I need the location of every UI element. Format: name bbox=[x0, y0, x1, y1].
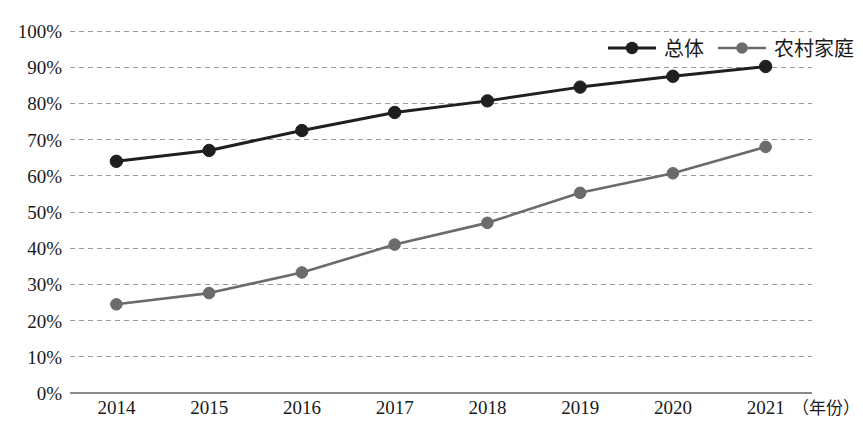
line-chart: 0%10%20%30%40%50%60%70%80%90%100% 201420… bbox=[0, 0, 863, 445]
legend-item-2[interactable]: 农村家庭 bbox=[718, 38, 854, 60]
gridlines-group bbox=[70, 31, 812, 357]
data-point bbox=[111, 299, 123, 311]
data-point bbox=[296, 267, 308, 279]
data-series-group bbox=[110, 60, 772, 310]
x-axis-unit-label: （年份） bbox=[792, 399, 860, 418]
data-point bbox=[574, 81, 586, 93]
data-point bbox=[574, 187, 586, 199]
y-axis-tick-label: 40% bbox=[27, 238, 62, 259]
y-axis-tick-labels: 0%10%20%30%40%50%60%70%80%90%100% bbox=[18, 21, 63, 404]
legend-label: 农村家庭 bbox=[774, 38, 854, 60]
data-point bbox=[296, 124, 308, 136]
data-point bbox=[482, 217, 494, 229]
legend-marker-icon bbox=[626, 42, 638, 54]
data-point bbox=[759, 60, 771, 72]
x-axis-tick-label: 2020 bbox=[654, 397, 692, 418]
x-axis-tick-label: 2017 bbox=[376, 397, 414, 418]
y-axis-tick-label: 20% bbox=[27, 311, 62, 332]
y-axis-tick-label: 50% bbox=[27, 202, 62, 223]
data-point bbox=[760, 141, 772, 153]
y-axis-tick-label: 60% bbox=[27, 166, 62, 187]
x-axis-tick-label: 2021 bbox=[747, 397, 785, 418]
data-point bbox=[388, 106, 400, 118]
y-axis-tick-label: 70% bbox=[27, 130, 62, 151]
legend-item-1[interactable]: 总体 bbox=[608, 38, 704, 60]
data-point bbox=[389, 239, 401, 251]
legend-marker-icon bbox=[736, 42, 748, 54]
x-axis-tick-label: 2019 bbox=[561, 397, 599, 418]
y-axis-tick-label: 30% bbox=[27, 274, 62, 295]
data-point bbox=[110, 155, 122, 167]
y-axis-tick-label: 10% bbox=[27, 347, 62, 368]
y-axis-tick-label: 100% bbox=[18, 21, 63, 42]
chart-container: 0%10%20%30%40%50%60%70%80%90%100% 201420… bbox=[0, 0, 863, 445]
data-point bbox=[481, 95, 493, 107]
y-axis-tick-label: 80% bbox=[27, 93, 62, 114]
legend-label: 总体 bbox=[664, 38, 704, 60]
x-axis-tick-label: 2018 bbox=[468, 397, 506, 418]
data-point bbox=[203, 144, 215, 156]
y-axis-tick-label: 0% bbox=[37, 383, 63, 404]
x-axis-tick-label: 2015 bbox=[190, 397, 228, 418]
series-1 bbox=[110, 60, 772, 167]
data-point bbox=[203, 287, 215, 299]
chart-legend: 总体农村家庭 bbox=[608, 38, 854, 60]
x-axis-tick-labels: 20142015201620172018201920202021 bbox=[97, 397, 784, 418]
data-point bbox=[667, 167, 679, 179]
y-axis-tick-label: 90% bbox=[27, 57, 62, 78]
data-point bbox=[667, 70, 679, 82]
x-axis-tick-label: 2014 bbox=[97, 397, 136, 418]
x-axis-tick-label: 2016 bbox=[283, 397, 321, 418]
